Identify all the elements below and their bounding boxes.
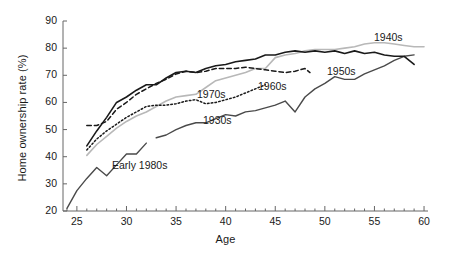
x-tick-label-25: 25: [62, 215, 92, 227]
series-label-s1980s: Early 1980s: [112, 159, 167, 171]
x-tick-label-40: 40: [211, 215, 241, 227]
home-ownership-chart-figure: 2030405060708090 2530354045505560 1940s1…: [0, 0, 451, 257]
series-label-s1970s: 1970s: [197, 88, 226, 100]
y-tick-label-20: 20: [31, 204, 57, 216]
x-tick-label-60: 60: [409, 215, 439, 227]
x-tick-label-50: 50: [310, 215, 340, 227]
x-tick-label-55: 55: [359, 215, 389, 227]
y-tick-label-30: 30: [31, 177, 57, 189]
y-tick-label-60: 60: [31, 95, 57, 107]
series-label-s1940s: 1940s: [374, 31, 403, 43]
series-label-s1960s: 1960s: [258, 80, 287, 92]
x-tick-label-45: 45: [260, 215, 290, 227]
series-label-s1930s: 1930s: [203, 114, 232, 126]
y-axis-title: Home ownership rate (%): [16, 18, 28, 218]
tick-marks: [63, 21, 424, 211]
x-axis-title: Age: [0, 233, 451, 245]
y-tick-label-50: 50: [31, 123, 57, 135]
x-tick-label-30: 30: [111, 215, 141, 227]
y-tick-label-90: 90: [31, 14, 57, 26]
axis-lines: [63, 21, 428, 211]
series-line-1970s: [87, 85, 266, 150]
series-line-1930s: [156, 55, 414, 138]
series-lines: [67, 43, 424, 209]
series-label-s1950s: 1950s: [327, 65, 356, 77]
series-line-1950s: [87, 51, 414, 146]
y-tick-label-70: 70: [31, 68, 57, 80]
y-tick-label-80: 80: [31, 41, 57, 53]
y-tick-label-40: 40: [31, 150, 57, 162]
series-line-early-1980s: [67, 143, 146, 208]
x-tick-label-35: 35: [161, 215, 191, 227]
